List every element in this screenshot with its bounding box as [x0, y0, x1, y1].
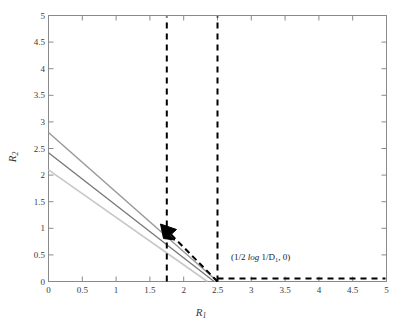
x-axis-title-text: R: [196, 306, 203, 318]
x-tick-label-8: 4: [317, 285, 322, 295]
x-tick-label-2: 1: [114, 285, 119, 295]
y-tick-label-6: 3: [41, 117, 46, 127]
y-tick-label-9: 4.5: [34, 37, 45, 47]
x-tick-label-1: 0.5: [77, 285, 88, 295]
x-tick-label-5: 2.5: [212, 285, 223, 295]
x-tick-label-9: 4.5: [347, 285, 358, 295]
x-tick-label-0: 0: [46, 285, 51, 295]
x-tick-label-7: 3.5: [279, 285, 290, 295]
annotation-mid: 1/D: [259, 252, 275, 262]
y-tick-label-3: 1.5: [34, 197, 45, 207]
series-line-upper: [49, 133, 218, 282]
x-axis-title: R1: [196, 306, 207, 318]
y-axis-title-subscript: 2: [11, 152, 20, 156]
y-tick-label-8: 4: [41, 64, 46, 74]
series-line-middle: [49, 153, 215, 282]
annotation-subscript: 1: [275, 256, 278, 263]
y-tick-label-2: 1: [41, 223, 46, 233]
x-axis-ticks-top: [82, 16, 352, 21]
y-axis-title: R2: [6, 152, 18, 163]
y-axis-ticks: [49, 16, 54, 282]
x-tick-label-3: 1.5: [144, 285, 155, 295]
annotation-log-word: log: [248, 252, 260, 262]
corner-point-annotation: (1/2 log 1/D1, 0): [231, 252, 290, 262]
y-axis-title-text: R: [6, 156, 18, 163]
x-axis-title-subscript: 1: [202, 311, 206, 320]
annotation-suffix: , 0): [278, 252, 290, 262]
chart-plot-area: [0, 0, 402, 331]
x-tick-label-10: 5: [384, 285, 389, 295]
y-tick-label-1: 0.5: [34, 250, 45, 260]
chart-figure: 0 0.5 1 1.5 2 2.5 3 3.5 4 4.5 5 0 0.5 1 …: [0, 0, 402, 331]
x-tick-label-4: 2: [181, 285, 186, 295]
y-tick-label-4: 2: [41, 170, 46, 180]
y-axis-ticks-right: [382, 42, 387, 255]
annotation-prefix: (1/2: [231, 252, 248, 262]
y-tick-label-5: 2.5: [34, 144, 45, 154]
y-tick-label-10: 5: [41, 11, 46, 21]
x-tick-label-6: 3: [249, 285, 254, 295]
y-tick-label-0: 0: [41, 277, 46, 287]
dashed-diagonal-line: [166, 229, 218, 281]
y-tick-label-7: 3.5: [34, 90, 45, 100]
series-line-lower: [49, 170, 208, 282]
